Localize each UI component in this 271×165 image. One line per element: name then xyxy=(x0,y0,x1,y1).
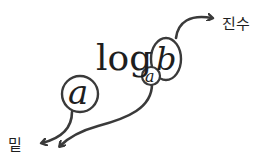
log-text: log xyxy=(96,37,152,78)
base-subscript-symbol: a xyxy=(145,67,155,86)
argument-symbol: b xyxy=(156,40,176,78)
diagram-canvas: log b a a 진수 밑 xyxy=(0,0,271,165)
base-label: 밑 xyxy=(8,136,22,154)
argument-label: 진수 xyxy=(222,15,250,33)
arrow-to-argument-label xyxy=(176,17,212,38)
isolated-base-symbol: a xyxy=(68,72,88,112)
logarithm-diagram: log b a a 진수 밑 xyxy=(0,0,271,165)
